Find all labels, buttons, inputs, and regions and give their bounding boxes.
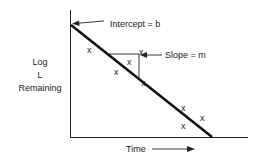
data-point-marker: x [139, 48, 144, 57]
data-point-marker: x [114, 68, 119, 77]
data-point-marker: x [87, 46, 92, 55]
data-point-marker: x [181, 104, 186, 113]
data-point-marker: x [200, 114, 205, 123]
data-point-marker: x [127, 58, 132, 67]
intercept-label: Intercept = b [110, 20, 160, 29]
data-point-marker: x [181, 122, 186, 131]
y-axis-label-line: Remaining [14, 82, 66, 95]
time-arrowhead [187, 146, 195, 152]
data-point-marker: x [141, 79, 146, 88]
y-axis-label: Log L Remaining [14, 56, 66, 95]
y-axis-label-line: L [14, 69, 66, 82]
y-axis-label-line: Log [14, 56, 66, 69]
x-axis-label: Time [126, 145, 146, 154]
slope-label: Slope = m [165, 51, 206, 60]
